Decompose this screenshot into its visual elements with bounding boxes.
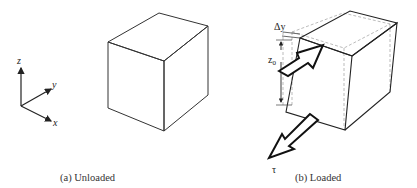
shear-arrow-tau [269,114,318,158]
caption-unloaded: (a) Unloaded [60,172,115,183]
unloaded-cube [108,13,208,131]
loaded-right-face [345,23,397,130]
loaded-cube: Δy z0 τ [268,11,397,175]
x-axis-label: x [52,117,58,128]
delta-y-dimension: Δy [274,21,300,38]
caption-loaded: (b) Loaded [295,172,341,183]
x-axis-arrow [21,106,51,121]
y-axis-arrow [21,89,51,106]
figure-canvas: z y x Δy [0,0,417,188]
tau-label: τ [272,164,276,175]
y-axis-label: y [51,79,57,90]
original-outline-dashed [283,13,390,128]
z0-label: z0 [268,54,276,67]
cube-front-left-face [108,42,164,131]
z-axis-label: z [16,55,21,66]
coordinate-axes: z y x [16,55,58,128]
delta-y-label: Δy [274,21,285,32]
cube-top-face [108,13,208,61]
shear-arrow-top [279,45,323,76]
cube-front-right-face [164,26,208,131]
